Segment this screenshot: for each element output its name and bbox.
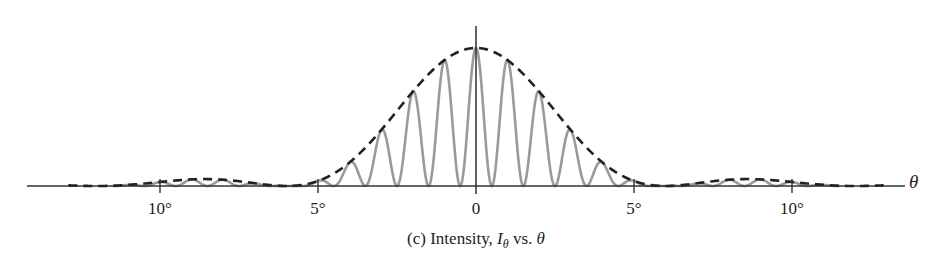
intensity-plot (0, 0, 934, 263)
x-tick-label: 5° (626, 199, 641, 219)
x-tick-label: 0 (472, 199, 481, 219)
x-tick-label: 10° (780, 199, 804, 219)
x-tick-label: 5° (310, 199, 325, 219)
x-tick-label: 10° (148, 199, 172, 219)
x-axis-label: θ (909, 171, 918, 193)
caption-xvar: θ (537, 229, 545, 248)
caption-prefix: (c) Intensity, (407, 229, 497, 248)
figure-caption: (c) Intensity, Iθ vs. θ (407, 229, 545, 252)
caption-suffix: vs. (509, 229, 537, 248)
